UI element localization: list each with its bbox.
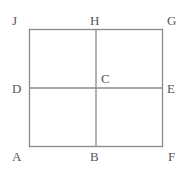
label-D: D <box>12 82 21 95</box>
label-F: F <box>168 150 175 163</box>
label-H: H <box>90 14 99 27</box>
label-C: C <box>101 72 110 85</box>
label-G: G <box>167 14 176 27</box>
label-J: J <box>12 14 17 27</box>
label-B: B <box>90 150 99 163</box>
label-A: A <box>12 150 21 163</box>
label-E: E <box>167 82 175 95</box>
